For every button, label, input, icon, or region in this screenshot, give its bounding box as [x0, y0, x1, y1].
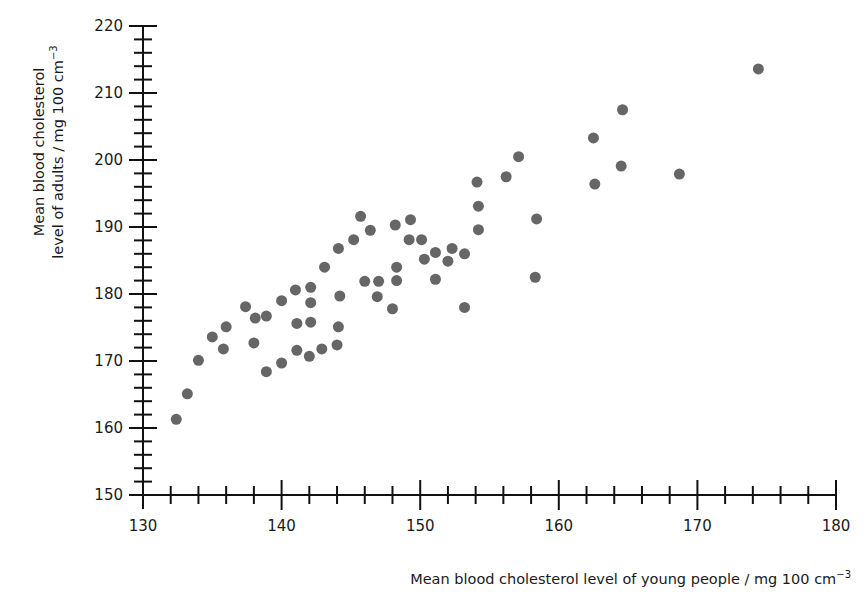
- x-tick-labels: 130140150160170180: [129, 517, 851, 535]
- y-tick-label: 200: [94, 151, 123, 169]
- data-point: [305, 317, 316, 328]
- data-point: [355, 211, 366, 222]
- data-point: [359, 276, 370, 287]
- data-points: [171, 63, 764, 424]
- x-tick-label: 140: [267, 517, 296, 535]
- data-point: [218, 343, 229, 354]
- data-point: [348, 234, 359, 245]
- y-tick-labels: 150160170180190200210220: [94, 17, 123, 504]
- data-point: [617, 104, 628, 115]
- data-point: [276, 358, 287, 369]
- data-point: [473, 201, 484, 212]
- data-point: [753, 63, 764, 74]
- data-point: [248, 337, 259, 348]
- scatter-chart: 130140150160170180 150160170180190200210…: [0, 0, 867, 607]
- x-tick-label: 130: [129, 517, 158, 535]
- y-tick-label: 180: [94, 285, 123, 303]
- y-tick-label: 210: [94, 84, 123, 102]
- data-point: [447, 243, 458, 254]
- data-point: [513, 151, 524, 162]
- data-point: [333, 321, 344, 332]
- data-point: [473, 224, 484, 235]
- data-point: [319, 262, 330, 273]
- data-point: [304, 351, 315, 362]
- data-point: [501, 171, 512, 182]
- x-tick-label: 180: [822, 517, 851, 535]
- x-axis-title: Mean blood cholesterol level of young pe…: [410, 569, 851, 587]
- data-point: [589, 179, 600, 190]
- data-point: [531, 213, 542, 224]
- data-point: [316, 343, 327, 354]
- data-point: [616, 161, 627, 172]
- data-point: [305, 282, 316, 293]
- data-point: [387, 303, 398, 314]
- data-point: [276, 295, 287, 306]
- y-tick-label: 150: [94, 486, 123, 504]
- y-axis-title-line2: level of adults / mg 100 cm−3: [48, 45, 66, 258]
- x-tick-label: 170: [683, 517, 712, 535]
- axis-ticks: [129, 26, 836, 510]
- y-tick-label: 190: [94, 218, 123, 236]
- data-point: [305, 297, 316, 308]
- data-point: [261, 366, 272, 377]
- data-point: [193, 355, 204, 366]
- data-point: [207, 331, 218, 342]
- data-point: [332, 339, 343, 350]
- data-point: [430, 274, 441, 285]
- data-point: [588, 132, 599, 143]
- data-point: [291, 345, 302, 356]
- data-point: [171, 414, 182, 425]
- data-point: [404, 234, 415, 245]
- data-point: [459, 248, 470, 259]
- data-point: [530, 272, 541, 283]
- y-axis-title-line1: Mean blood cholesterol: [31, 68, 47, 237]
- data-point: [333, 243, 344, 254]
- x-tick-label: 160: [544, 517, 573, 535]
- data-point: [373, 276, 384, 287]
- x-tick-label: 150: [406, 517, 435, 535]
- y-axis-title: Mean blood cholesterol level of adults /…: [31, 45, 66, 258]
- data-point: [390, 219, 401, 230]
- data-point: [372, 291, 383, 302]
- data-point: [674, 169, 685, 180]
- data-point: [290, 284, 301, 295]
- data-point: [416, 234, 427, 245]
- data-point: [430, 247, 441, 258]
- y-tick-label: 220: [94, 17, 123, 35]
- data-point: [334, 291, 345, 302]
- y-tick-label: 160: [94, 419, 123, 437]
- data-point: [291, 318, 302, 329]
- data-point: [405, 214, 416, 225]
- data-point: [250, 313, 261, 324]
- data-point: [261, 311, 272, 322]
- data-point: [221, 321, 232, 332]
- data-point: [442, 256, 453, 267]
- y-tick-label: 170: [94, 352, 123, 370]
- data-point: [472, 177, 483, 188]
- data-point: [391, 262, 402, 273]
- data-point: [182, 388, 193, 399]
- data-point: [419, 254, 430, 265]
- data-point: [459, 302, 470, 313]
- data-point: [240, 301, 251, 312]
- data-point: [365, 225, 376, 236]
- data-point: [391, 275, 402, 286]
